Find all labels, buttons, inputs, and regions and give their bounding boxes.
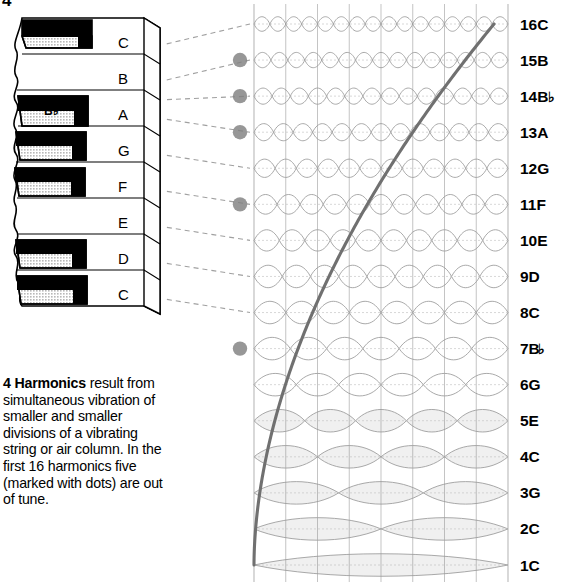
- flat-sign: ♭: [538, 341, 545, 357]
- wave-loop: [254, 195, 277, 215]
- harmonic-label: 9D: [520, 268, 540, 285]
- figure-caption: 4 Harmonics result from simultaneous vib…: [3, 375, 163, 508]
- wave-loop: [254, 554, 508, 577]
- black-key-6[interactable]: [17, 276, 87, 304]
- harmonic-label: 8C: [520, 304, 540, 321]
- harmonic-row: [254, 409, 508, 432]
- harmonic-series-chart: 1C2C3G4C5E6G7B♭8C9D10E11F12G13A14B♭15B16…: [166, 0, 567, 586]
- harmonic-chart-svg: 1C2C3G4C5E6G7B♭8C9D10E11F12G13A14B♭15B16…: [166, 0, 567, 586]
- harmonic-label: 5E: [520, 412, 539, 429]
- figure-root: 4: [0, 0, 567, 586]
- harmonic-label: 15B: [520, 52, 548, 69]
- harmonic-labels: 1C2C3G4C5E6G7B♭8C9D10E11F12G13A14B♭15B16…: [520, 16, 555, 574]
- key-label-c-top: C: [118, 34, 129, 51]
- keyboard-svg: B♭: [0, 14, 166, 322]
- wave-loop: [254, 518, 381, 541]
- wave-loop: [485, 195, 508, 215]
- harmonic-label: 14B: [520, 88, 548, 105]
- black-key-bflat[interactable]: B♭: [18, 96, 88, 126]
- figure-number: 4: [2, 0, 11, 11]
- key-connector: [166, 24, 250, 46]
- out-of-tune-dot[interactable]: [233, 125, 247, 139]
- piano-keyboard: B♭: [0, 14, 166, 322]
- wave-loop: [277, 195, 300, 215]
- key-connector: [166, 226, 250, 240]
- harmonic-label: 16C: [520, 16, 548, 33]
- harmonic-label: 11F: [520, 196, 546, 213]
- harmonic-label: 10E: [520, 232, 548, 249]
- harmonic-row: [254, 482, 508, 505]
- black-key-1[interactable]: [22, 20, 92, 48]
- harmonic-label: 1C: [520, 557, 540, 574]
- harmonic-label: 6G: [520, 376, 541, 393]
- black-key-3[interactable]: [16, 132, 86, 160]
- harmonic-row: [254, 554, 508, 577]
- key-connector: [166, 298, 250, 313]
- out-of-tune-dot[interactable]: [233, 341, 247, 355]
- key-label-g: G: [118, 142, 130, 159]
- key-connector: [166, 262, 250, 276]
- out-of-tune-dot[interactable]: [233, 197, 247, 211]
- black-key-4[interactable]: [15, 168, 85, 196]
- out-of-tune-dot[interactable]: [233, 53, 247, 67]
- key-label-d: D: [118, 250, 129, 267]
- wave-loop: [327, 337, 363, 360]
- key-label-c-bottom: C: [118, 286, 129, 303]
- black-key-bflat-label: B♭: [44, 104, 59, 118]
- harmonic-label: 4C: [520, 448, 540, 465]
- key-label-a: A: [118, 106, 128, 123]
- harmonic-label: 3G: [520, 484, 541, 501]
- wave-loop: [393, 195, 416, 215]
- harmonic-label: 7B: [520, 340, 540, 357]
- key-label-f: F: [118, 178, 127, 195]
- out-of-tune-dot[interactable]: [233, 89, 247, 103]
- caption-body: result from simultaneous vibration of sm…: [3, 375, 163, 507]
- flat-sign: ♭: [548, 89, 555, 105]
- wave-loop: [381, 518, 508, 541]
- key-connector: [166, 154, 250, 168]
- caption-lead: 4 Harmonics: [3, 375, 86, 391]
- harmonic-label: 2C: [520, 520, 540, 537]
- out-of-tune-dots: [233, 53, 247, 356]
- harmonic-label: 13A: [520, 124, 548, 141]
- black-key-5[interactable]: [16, 240, 86, 268]
- key-label-b: B: [118, 70, 128, 87]
- wave-loop: [399, 337, 435, 360]
- harmonic-label: 12G: [520, 160, 549, 177]
- wave-loop: [462, 195, 485, 215]
- key-connectors: [166, 24, 250, 313]
- key-label-e: E: [118, 214, 128, 231]
